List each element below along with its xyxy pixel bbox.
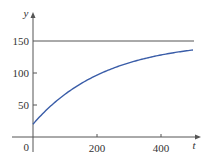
y-tick-label: 50 [18, 99, 30, 111]
x-axis-label: t [192, 139, 196, 151]
y-tick-label: 100 [13, 67, 30, 79]
y-axis-arrow-icon [31, 12, 36, 18]
x-tick-label: 200 [89, 142, 106, 154]
x-axis-arrow-icon [195, 135, 201, 140]
chart: 200 400 50 100 150 0 t y [0, 0, 209, 163]
y-tick-label: 150 [13, 35, 30, 47]
data-curve [33, 50, 193, 124]
origin-label: 0 [24, 141, 30, 153]
x-tick-label: 400 [153, 142, 170, 154]
y-axis-label: y [23, 7, 29, 19]
